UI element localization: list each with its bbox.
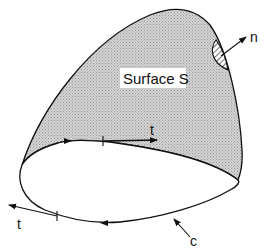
- normal-label: n: [250, 29, 258, 45]
- surface-label: Surface S: [123, 70, 189, 87]
- tangent-bottom-label: t: [17, 216, 21, 232]
- tangent-top-label: t: [150, 122, 154, 138]
- curve-label-pointer: [174, 219, 190, 237]
- normal-vector-arrow: [221, 37, 246, 56]
- stokes-theorem-diagram: n Surface S t t c: [0, 0, 268, 249]
- curve-label: c: [190, 233, 197, 249]
